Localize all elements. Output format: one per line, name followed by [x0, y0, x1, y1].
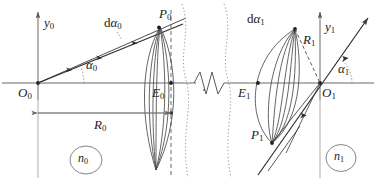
label-O0: O0 — [18, 86, 32, 99]
label-n1: n1 — [334, 150, 344, 162]
label-dalpha1: dα1 — [247, 12, 265, 25]
axis-break-zigzag — [194, 72, 224, 94]
label-E1: E1 — [238, 86, 250, 99]
point-p0-dot — [157, 26, 161, 30]
label-P0: P0 — [159, 7, 171, 20]
label-R1: R1 — [303, 33, 315, 46]
zigzag-dot — [203, 89, 205, 91]
label-E0: E0 — [152, 86, 164, 99]
label-y0: y0 — [44, 16, 54, 29]
point-e1-dot — [256, 81, 260, 85]
alpha0-angle-arc — [81, 67, 84, 83]
label-P1: P1 — [251, 128, 263, 141]
diagram-canvas — [0, 0, 376, 181]
label-y1: y1 — [325, 20, 335, 33]
label-n0: n0 — [78, 152, 88, 164]
label-alpha1: α1 — [338, 62, 349, 75]
label-R0: R0 — [94, 118, 106, 131]
dalpha0-leader-line — [117, 32, 122, 40]
label-alpha0: α0 — [86, 58, 97, 71]
optics-ray-diagram: y0 O0 α0 dα0 P0 E0 R0 n0 y1 dα1 R1 E1 P1… — [0, 0, 376, 181]
point-e0-dot — [169, 81, 173, 85]
label-O1: O1 — [322, 86, 336, 99]
label-dalpha0: dα0 — [104, 16, 122, 29]
